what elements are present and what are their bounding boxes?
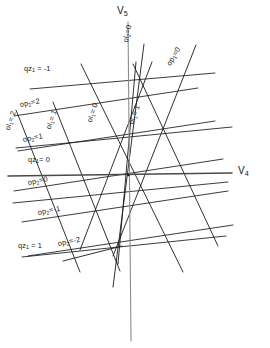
qz1-line-0 [16, 127, 232, 148]
label-qz1-neg1: qz1 = -1 [24, 65, 51, 74]
ol1-line-0 [81, 64, 183, 272]
ol2-line-extra [118, 62, 136, 264]
op1-line-extra-a [80, 62, 152, 250]
op1-line-0 [113, 45, 196, 256]
op2-line-2 [14, 88, 198, 116]
v4-axis-label: V4 [238, 166, 249, 177]
op2-family [14, 88, 233, 256]
qz1-family [13, 73, 232, 257]
line-diagram [0, 0, 270, 348]
label-qz1-1: qz1 = 1 [18, 242, 42, 251]
qz1-line--1 [30, 73, 215, 89]
v5-axis-label: V5 [117, 6, 128, 17]
v5-axis [128, 22, 131, 341]
convergence-point [127, 174, 130, 177]
label-qz1-0: qz1= 0 [28, 156, 50, 165]
figure-canvas: V5 V4 qz1 = -1 op2=2 ol1= 2 ol1= 1 ol1= … [0, 0, 270, 348]
ol1-family [16, 64, 218, 272]
qz1-line-1 [22, 236, 226, 257]
